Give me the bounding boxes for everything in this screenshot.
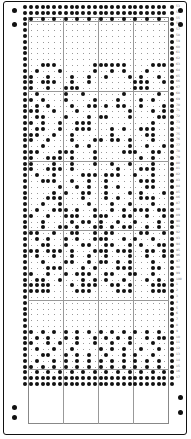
grid-dot xyxy=(89,48,90,49)
grid-dot xyxy=(130,361,131,362)
punched-hole xyxy=(35,173,39,177)
grid-dot xyxy=(164,268,165,269)
grid-dot xyxy=(43,314,44,315)
grid-dot xyxy=(130,65,131,66)
punched-hole xyxy=(70,11,74,15)
grid-dot xyxy=(89,152,90,153)
row-number: 68 xyxy=(176,92,180,95)
grid-dot xyxy=(89,88,90,89)
grid-dot xyxy=(124,181,125,182)
grid-dot xyxy=(159,314,160,315)
sprocket-hole xyxy=(170,220,174,224)
grid-dot xyxy=(77,222,78,223)
grid-dot xyxy=(153,42,154,43)
row-number: 59 xyxy=(176,40,180,43)
grid-dot xyxy=(66,135,67,136)
grid-dot xyxy=(66,343,67,344)
grid-dot xyxy=(159,239,160,240)
grid-dot xyxy=(141,251,142,252)
grid-dot xyxy=(77,262,78,263)
punched-hole xyxy=(35,92,39,96)
grid-dot xyxy=(135,135,136,136)
grid-dot xyxy=(48,59,49,60)
punched-hole xyxy=(64,208,68,212)
sprocket-hole xyxy=(170,324,174,328)
grid-dot xyxy=(37,274,38,275)
grid-dot xyxy=(95,82,96,83)
grid-dot xyxy=(135,349,136,350)
grid-dot xyxy=(66,251,67,252)
grid-dot xyxy=(77,251,78,252)
grid-dot xyxy=(66,181,67,182)
grid-dot xyxy=(130,71,131,72)
grid-dot xyxy=(66,291,67,292)
grid-dot xyxy=(135,326,136,327)
grid-dot xyxy=(43,233,44,234)
punched-hole xyxy=(41,202,45,206)
grid-dot xyxy=(31,239,32,240)
grid-dot xyxy=(37,100,38,101)
grid-dot xyxy=(106,164,107,165)
grid-dot xyxy=(135,251,136,252)
punched-hole xyxy=(81,278,85,282)
punched-hole xyxy=(29,382,33,386)
grid-dot xyxy=(141,30,142,31)
grid-dot xyxy=(164,314,165,315)
grid-dot xyxy=(77,175,78,176)
grid-dot xyxy=(101,198,102,199)
grid-dot xyxy=(31,222,32,223)
sprocket-hole xyxy=(170,365,174,369)
row-number: 17 xyxy=(176,376,180,379)
grid-dot xyxy=(60,326,61,327)
punched-hole xyxy=(110,11,114,15)
punched-hole xyxy=(35,249,39,253)
grid-dot xyxy=(118,309,119,310)
grid-dot xyxy=(66,187,67,188)
grid-dot xyxy=(164,100,165,101)
grid-dot xyxy=(130,36,131,37)
grid-dot xyxy=(54,146,55,147)
grid-dot xyxy=(112,262,113,263)
grid-dot xyxy=(147,117,148,118)
grid-dot xyxy=(66,280,67,281)
grid-dot xyxy=(141,367,142,368)
grid-dot xyxy=(164,71,165,72)
grid-dot xyxy=(118,164,119,165)
grid-dot xyxy=(124,285,125,286)
grid-dot xyxy=(54,36,55,37)
grid-dot xyxy=(135,303,136,304)
row-number: 11 xyxy=(176,341,180,344)
grid-dot xyxy=(54,280,55,281)
punched-hole xyxy=(93,173,97,177)
grid-dot xyxy=(118,135,119,136)
grid-dot xyxy=(66,314,67,315)
grid-dot xyxy=(43,106,44,107)
grid-dot xyxy=(31,355,32,356)
grid-dot xyxy=(106,53,107,54)
grid-dot xyxy=(77,53,78,54)
grid-dot xyxy=(83,320,84,321)
grid-dot xyxy=(77,24,78,25)
punched-hole xyxy=(99,63,103,67)
grid-dot xyxy=(147,42,148,43)
punched-hole xyxy=(110,162,114,166)
grid-dot xyxy=(48,19,49,20)
grid-dot xyxy=(112,309,113,310)
grid-dot xyxy=(106,332,107,333)
punched-hole xyxy=(70,260,74,264)
grid-dot xyxy=(153,71,154,72)
punched-hole xyxy=(35,347,39,351)
grid-dot xyxy=(147,239,148,240)
grid-dot xyxy=(83,111,84,112)
grid-dot xyxy=(95,303,96,304)
grid-dot xyxy=(153,227,154,228)
grid-dot xyxy=(147,24,148,25)
grid-dot xyxy=(101,82,102,83)
grid-dot xyxy=(147,59,148,60)
punched-hole xyxy=(157,336,161,340)
grid-dot xyxy=(124,303,125,304)
grid-dot xyxy=(159,24,160,25)
grid-dot xyxy=(130,100,131,101)
punched-hole xyxy=(41,63,45,67)
grid-dot xyxy=(112,146,113,147)
